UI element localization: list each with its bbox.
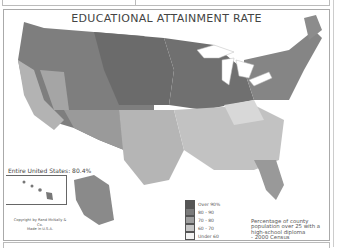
legend-swatch	[185, 224, 195, 232]
legend-label: 80 - 90	[198, 210, 214, 215]
map-description: Percentage of county population over 25 …	[251, 219, 330, 241]
description-line: - 2000 Census	[251, 235, 330, 240]
legend-item: 70 - 80	[185, 216, 220, 224]
legend-item: Under 60	[185, 232, 220, 240]
legend-item: 80 - 90	[185, 208, 220, 216]
divider	[135, 0, 136, 5]
legend-label: 70 - 80	[198, 218, 214, 223]
copyright: Copyright by Rand McNally & Co. Made in …	[12, 218, 68, 232]
national-summary: Entire United States: 80.4%	[8, 167, 91, 174]
page-edge	[333, 0, 334, 247]
map-frame: EDUCATIONAL ATTAINMENT RATE Entire Unite…	[3, 9, 330, 241]
legend-swatch	[185, 200, 195, 208]
legend-label: Under 60	[198, 234, 219, 239]
hawaii-inset-border	[6, 175, 67, 205]
top-border-strip	[2, 0, 330, 6]
legend-swatch	[185, 232, 195, 240]
copyright-line: Made in U.S.A.	[12, 227, 68, 232]
legend-swatch	[185, 216, 195, 224]
us-county-choropleth	[4, 10, 329, 240]
bottom-border-strip	[3, 242, 330, 248]
legend-label: Over 90%	[198, 202, 220, 207]
legend: Over 90% 80 - 90 70 - 80 60 - 70 Under 6…	[185, 200, 220, 240]
legend-swatch	[185, 208, 195, 216]
legend-item: 60 - 70	[185, 224, 220, 232]
copyright-line: Copyright by Rand McNally & Co.	[12, 218, 68, 227]
legend-item: Over 90%	[185, 200, 220, 208]
map-title: EDUCATIONAL ATTAINMENT RATE	[4, 12, 329, 25]
legend-label: 60 - 70	[198, 226, 214, 231]
